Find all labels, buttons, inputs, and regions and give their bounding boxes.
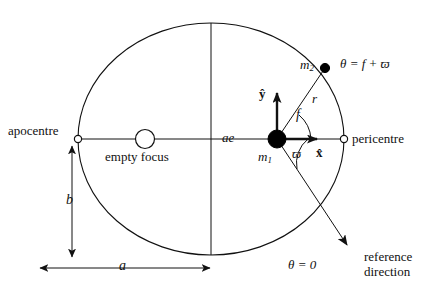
orbit-diagram: apocentre pericentre empty focus ae b a … xyxy=(0,0,438,294)
secondary-mass-label: m2 xyxy=(300,58,314,73)
primary-mass-symbol: m xyxy=(258,149,267,164)
secondary-mass-symbol: m xyxy=(300,57,309,72)
semi-major-axis-label: a xyxy=(119,259,126,273)
apocentre-marker xyxy=(74,135,81,142)
semi-minor-axis-label: b xyxy=(66,193,73,207)
unit-vector-y-label: ŷ xyxy=(259,87,266,100)
pericentre-label: pericentre xyxy=(352,132,404,145)
primary-mass-subscript: 1 xyxy=(267,155,272,165)
longitude-pericentre-label: ϖ xyxy=(292,147,301,160)
apocentre-label: apocentre xyxy=(8,124,59,137)
primary-body-m1-marker xyxy=(268,130,286,148)
empty-focus-marker xyxy=(136,130,155,149)
true-anomaly-arc xyxy=(299,115,311,139)
reference-direction-line-2: direction xyxy=(364,265,412,280)
theta-at-m2-label: θ = f + ϖ xyxy=(340,57,390,70)
secondary-mass-subscript: 2 xyxy=(309,63,314,73)
reference-direction-label: reference direction xyxy=(364,250,412,279)
pericentre-marker xyxy=(340,135,347,142)
reference-direction-line xyxy=(277,139,347,245)
true-anomaly-label: f xyxy=(296,108,300,122)
empty-focus-label: empty focus xyxy=(105,150,169,163)
radius-vector-line xyxy=(277,68,325,139)
radius-label: r xyxy=(312,92,317,105)
primary-mass-label: m1 xyxy=(258,150,272,165)
theta-zero-label: θ = 0 xyxy=(288,258,316,271)
secondary-body-m2-marker xyxy=(320,63,329,72)
focal-distance-label: ae xyxy=(222,131,234,144)
unit-vector-x-label: x̂ xyxy=(316,146,323,159)
reference-direction-line-1: reference xyxy=(364,250,412,265)
